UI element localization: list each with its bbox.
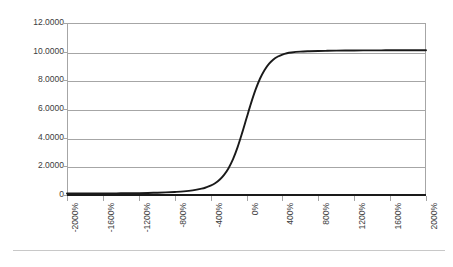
x-axis-tick-label: 1600%: [394, 203, 403, 229]
y-axis-tick-label: 2.0000: [2, 161, 64, 170]
x-axis-tick-mark: [318, 196, 319, 201]
chart-container: 02.00004.00006.00008.000010.000012.0000 …: [0, 0, 453, 267]
bottom-divider: [13, 250, 445, 251]
x-axis-tick-mark: [211, 196, 212, 201]
y-axis-tick-label: 10.0000: [2, 47, 64, 56]
x-axis-tick-label: -2000%: [71, 203, 80, 232]
x-axis-tick-label: 0%: [251, 203, 260, 215]
y-axis-tick-label: 12.0000: [2, 18, 64, 27]
x-axis-tick-label: -800%: [179, 203, 188, 228]
y-axis-tick-label: 6.0000: [2, 104, 64, 113]
y-axis-labels: 02.00004.00006.00008.000010.000012.0000: [0, 0, 64, 267]
x-axis-tick-label: 400%: [286, 203, 295, 225]
x-axis-tick-mark: [426, 196, 427, 201]
x-axis-tick-mark: [175, 196, 176, 201]
x-axis-tick-label: 2000%: [430, 203, 439, 229]
x-axis-tick-mark: [67, 196, 68, 201]
x-axis-tick-mark: [247, 196, 248, 201]
x-axis-tick-mark: [139, 196, 140, 201]
x-axis-tick-label: -1200%: [143, 203, 152, 232]
logistic-curve-path: [67, 50, 426, 193]
x-axis-tick-label: 800%: [322, 203, 331, 225]
x-axis-tick-mark: [282, 196, 283, 201]
y-axis-tick-label: 8.0000: [2, 75, 64, 84]
x-axis-tick-mark: [390, 196, 391, 201]
y-axis-tick-label: 0: [2, 190, 64, 199]
y-axis-tick-label: 4.0000: [2, 133, 64, 142]
x-axis-tick-label: -1600%: [107, 203, 116, 232]
line-chart-curve: [67, 23, 426, 195]
x-axis-tick-mark: [103, 196, 104, 201]
x-axis-tick-mark: [354, 196, 355, 201]
x-axis-tick-label: 1200%: [358, 203, 367, 229]
x-axis-tick-label: -400%: [215, 203, 224, 228]
